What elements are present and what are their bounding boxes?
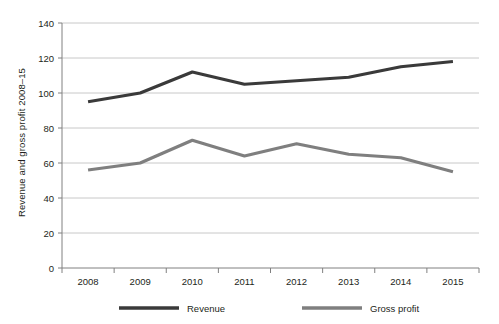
x-axis-tick-labels: 20082009201020112012201320142015 [77,276,463,287]
x-axis-tick-label: 2010 [182,276,203,287]
y-axis-tick-label: 60 [43,158,54,169]
x-axis-tick-label: 2009 [130,276,151,287]
x-axis-tick-label: 2014 [390,276,411,287]
x-axis-tick-label: 2015 [442,276,463,287]
gridlines [62,23,479,233]
line-chart: Revenue and gross profit 2008–15 0204060… [0,0,499,324]
y-axis-tick-labels: 020406080100120140 [38,18,54,274]
y-axis-tick-label: 0 [49,263,54,274]
series-line-gross-profit [88,140,453,172]
y-axis-tick-label: 140 [38,18,54,29]
axis-lines [62,23,479,268]
data-series [88,62,453,172]
y-axis-tick-label: 80 [43,123,54,134]
x-axis-tick-label: 2013 [338,276,359,287]
chart-canvas: 020406080100120140 200820092010201120122… [0,0,499,324]
x-axis-ticks [62,268,479,273]
chart-legend: RevenueGross profit [119,303,419,314]
y-axis-tick-label: 120 [38,53,54,64]
y-axis-title-wrap: Revenue and gross profit 2008–15 [8,0,34,285]
x-axis-tick-label: 2012 [286,276,307,287]
legend-label-revenue: Revenue [187,303,225,314]
x-axis-tick-label: 2008 [77,276,98,287]
series-line-revenue [88,62,453,102]
x-axis-tick-label: 2011 [234,276,254,287]
y-axis-tick-label: 40 [43,193,54,204]
legend-label-gross-profit: Gross profit [370,303,419,314]
y-axis-tick-label: 100 [38,88,54,99]
y-axis-ticks [58,23,62,268]
y-axis-tick-label: 20 [43,228,54,239]
y-axis-title: Revenue and gross profit 2008–15 [16,68,27,217]
